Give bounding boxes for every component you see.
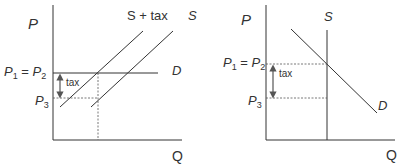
left-tax-label: tax	[66, 77, 79, 88]
right-x-axis-label: Q	[386, 147, 397, 163]
right-supply-label: S	[324, 9, 333, 24]
left-supply-label: S	[188, 8, 197, 23]
left-chart: P Q S + tax S D tax P1 = P2 P3	[4, 5, 197, 164]
left-supply-plus-tax-curve	[60, 31, 143, 107]
right-p3-label: P3	[248, 93, 262, 110]
right-chart: P Q S D tax P1 = P2 P3	[223, 5, 397, 163]
left-p3-label: P3	[35, 93, 49, 110]
right-demand-label: D	[378, 98, 387, 113]
left-p1-eq-p2-label: P1 = P2	[4, 64, 46, 81]
left-y-axis-label: P	[28, 15, 38, 32]
left-x-axis-label: Q	[172, 148, 183, 164]
right-demand-curve	[291, 29, 377, 113]
left-demand-label: D	[172, 63, 181, 78]
left-supply-curve	[91, 31, 173, 107]
tax-incidence-diagrams: P Q S + tax S D tax P1 = P2 P3 P Q S D t…	[0, 0, 406, 167]
right-tax-label: tax	[279, 68, 292, 79]
right-y-axis-label: P	[241, 11, 251, 28]
left-supply-tax-label: S + tax	[127, 8, 168, 23]
right-p1-eq-p2-label: P1 = P2	[223, 55, 265, 72]
